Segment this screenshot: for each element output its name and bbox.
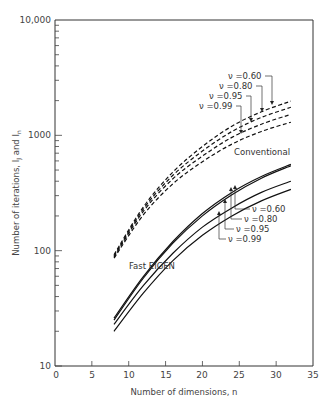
fast-eigen-annotations: ν =0.60 ν =0.80 ν =0.95 ν =0.99	[217, 185, 286, 244]
fast-eigen-curve-6	[114, 181, 291, 324]
y-tick-label-10000: 10,000	[20, 15, 52, 25]
fast-nu-080-label: ν =0.80	[244, 214, 278, 224]
x-tick-label-35: 35	[307, 370, 318, 380]
x-tick-label-5: 5	[89, 370, 95, 380]
x-tick-label-20: 20	[196, 370, 208, 380]
arrow-icon	[233, 185, 237, 189]
conv-nu-095-label: ν =0.95	[209, 91, 243, 101]
conv-nu-060-label: ν =0.60	[228, 71, 262, 81]
fast-nu-099-label: ν =0.99	[228, 234, 262, 244]
chart: 10,000 1000 100 10 0 5 10 15 20 25 30 35…	[0, 0, 331, 403]
plot-frame	[55, 20, 313, 366]
conv-nu-080-label: ν =0.80	[219, 81, 253, 91]
conv-nu-080-leader	[256, 86, 262, 110]
y-tick-label-10: 10	[40, 361, 52, 371]
fast-eigen-label: Fast EIGEN	[129, 261, 175, 271]
conv-nu-099-leader	[236, 106, 241, 132]
fast-nu-060-label: ν =0.60	[252, 204, 286, 214]
x-tick-label-25: 25	[233, 370, 244, 380]
y-axis-title: Number of iterations, IJ and In	[11, 130, 23, 256]
fast-nu-095-label: ν =0.95	[236, 224, 270, 234]
y-tick-label-1000: 1000	[28, 130, 51, 140]
arrow-icon	[270, 101, 274, 105]
x-axis-title: Number of dimensions, n	[131, 387, 238, 397]
fast-eigen-curve-4	[114, 164, 291, 318]
y-ticks	[55, 25, 62, 366]
conventional-curve-3	[114, 122, 291, 258]
y-tick-label-100: 100	[34, 246, 51, 256]
x-tick-label-10: 10	[123, 370, 135, 380]
fast-nu-080-leader	[231, 189, 242, 219]
arrow-icon	[229, 187, 233, 191]
conv-nu-099-label: ν =0.99	[199, 101, 233, 111]
conv-nu-060-leader	[265, 76, 272, 103]
x-tick-label-15: 15	[160, 370, 171, 380]
conventional-label: Conventional	[234, 147, 290, 157]
x-tick-label-30: 30	[270, 370, 282, 380]
arrow-icon	[217, 211, 221, 215]
x-tick-label-0: 0	[53, 370, 59, 380]
conventional-annotations: ν =0.60 ν =0.80 ν =0.95 ν =0.99	[199, 71, 274, 134]
fast-nu-060-leader	[235, 187, 250, 209]
x-ticks	[92, 361, 276, 366]
